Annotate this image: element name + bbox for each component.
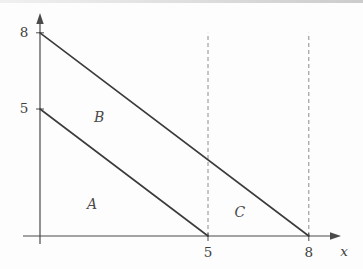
region-label-b: B <box>94 110 104 124</box>
x-tick-label-5: 5 <box>204 246 213 260</box>
y-tick-label-5: 5 <box>20 102 29 116</box>
region-label-c: C <box>235 205 246 219</box>
y-tick-label-8: 8 <box>20 26 29 40</box>
figure-canvas: 8 5 5 8 x A B C <box>0 0 363 269</box>
region-label-a: A <box>87 197 97 211</box>
x-tick-label-8: 8 <box>305 246 314 260</box>
figure-svg <box>0 0 363 269</box>
x-axis-label: x <box>340 245 348 259</box>
